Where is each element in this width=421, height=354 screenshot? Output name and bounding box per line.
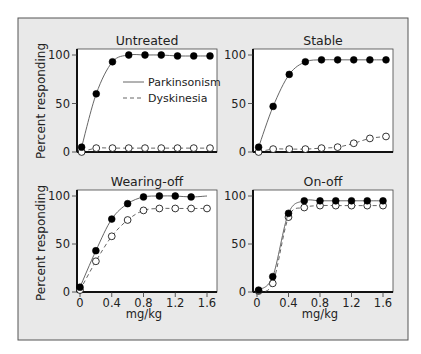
marker-parkinsonism	[77, 284, 84, 291]
marker-parkinsonism	[142, 52, 149, 59]
x-tick-label: 0	[253, 296, 260, 310]
marker-dyskinesia	[286, 146, 293, 153]
marker-parkinsonism	[366, 56, 373, 63]
marker-parkinsonism	[207, 53, 214, 60]
marker-dyskinesia	[350, 140, 357, 147]
x-tick-label: 1.6	[374, 296, 392, 310]
y-tick-label: 100	[224, 48, 246, 62]
marker-dyskinesia	[172, 205, 179, 212]
legend-label-dyskinesia: Dyskinesia	[148, 92, 207, 105]
marker-parkinsonism	[140, 194, 147, 201]
marker-parkinsonism	[158, 52, 165, 59]
x-tick-label: 0.4	[279, 296, 297, 310]
marker-parkinsonism	[125, 52, 132, 59]
marker-parkinsonism	[334, 56, 341, 63]
panel-title-wearing-off: Wearing-off	[111, 174, 184, 189]
marker-parkinsonism	[301, 197, 308, 204]
marker-dyskinesia	[156, 205, 163, 212]
y-tick-label: 50	[231, 97, 246, 111]
marker-parkinsonism	[93, 90, 100, 97]
figure: Untreated Stable Wearing-off On-off Perc…	[0, 0, 421, 354]
y-tick-label: 50	[231, 237, 246, 251]
marker-dyskinesia	[190, 145, 197, 152]
marker-dyskinesia	[92, 258, 99, 265]
x-tick-label: 1.6	[198, 296, 216, 310]
marker-parkinsonism	[78, 144, 85, 151]
y-tick-label: 0	[63, 285, 70, 299]
marker-dyskinesia	[93, 145, 100, 152]
marker-parkinsonism	[109, 58, 116, 65]
marker-parkinsonism	[380, 197, 387, 204]
marker-dyskinesia	[302, 146, 309, 153]
marker-parkinsonism	[348, 197, 355, 204]
panel-title-on-off: On-off	[304, 174, 343, 189]
marker-dyskinesia	[174, 145, 181, 152]
marker-parkinsonism	[255, 144, 262, 151]
marker-parkinsonism	[302, 58, 309, 65]
marker-dyskinesia	[158, 145, 165, 152]
y-tick-label: 0	[239, 285, 246, 299]
y-tick-label: 50	[55, 97, 70, 111]
marker-parkinsonism	[364, 197, 371, 204]
marker-parkinsonism	[92, 247, 99, 254]
y-axis-label-bottom: Percent responding	[34, 185, 48, 301]
marker-dyskinesia	[318, 145, 325, 152]
marker-dyskinesia	[142, 145, 149, 152]
marker-dyskinesia	[109, 145, 116, 152]
marker-parkinsonism	[156, 193, 163, 200]
marker-dyskinesia	[334, 144, 341, 151]
marker-parkinsonism	[350, 56, 357, 63]
marker-parkinsonism	[317, 197, 324, 204]
y-tick-label: 50	[55, 237, 70, 251]
legend-label-parkinsonism: Parkinsonism	[148, 76, 221, 89]
marker-parkinsonism	[190, 53, 197, 60]
marker-parkinsonism	[332, 197, 339, 204]
y-tick-label: 0	[63, 145, 70, 159]
y-axis-label-top: Percent responding	[34, 43, 48, 159]
plot-area	[77, 190, 217, 292]
panel-title-untreated: Untreated	[116, 33, 179, 48]
marker-dyskinesia	[301, 204, 308, 211]
marker-parkinsonism	[174, 53, 181, 60]
marker-parkinsonism	[124, 200, 131, 207]
marker-parkinsonism	[255, 287, 262, 294]
marker-dyskinesia	[204, 205, 211, 212]
marker-parkinsonism	[383, 56, 390, 63]
marker-dyskinesia	[108, 233, 115, 240]
marker-parkinsonism	[188, 194, 195, 201]
marker-parkinsonism	[172, 193, 179, 200]
marker-parkinsonism	[108, 216, 115, 223]
y-tick-label: 100	[48, 189, 70, 203]
y-tick-label: 100	[224, 189, 246, 203]
marker-parkinsonism	[285, 210, 292, 217]
marker-parkinsonism	[318, 56, 325, 63]
x-tick-label: 0.4	[103, 296, 121, 310]
y-tick-label: 100	[48, 48, 70, 62]
x-tick-label: 1.2	[166, 296, 184, 310]
marker-dyskinesia	[140, 207, 147, 214]
marker-dyskinesia	[383, 133, 390, 140]
y-tick-label: 0	[239, 145, 246, 159]
marker-parkinsonism	[270, 103, 277, 110]
x-tick-label: 0	[76, 296, 83, 310]
marker-dyskinesia	[188, 205, 195, 212]
marker-dyskinesia	[270, 146, 277, 153]
x-tick-label: 1.2	[342, 296, 360, 310]
marker-parkinsonism	[269, 273, 276, 280]
marker-dyskinesia	[207, 145, 214, 152]
marker-dyskinesia	[366, 135, 373, 142]
x-tick-label: 0.8	[311, 296, 329, 310]
marker-parkinsonism	[286, 71, 293, 78]
marker-dyskinesia	[124, 217, 131, 224]
panel-title-stable: Stable	[303, 33, 343, 48]
x-tick-label: 0.8	[134, 296, 152, 310]
marker-dyskinesia	[125, 145, 132, 152]
